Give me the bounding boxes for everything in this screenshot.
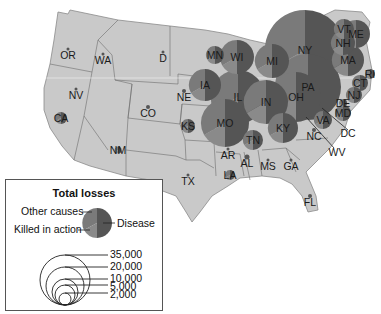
state-label-nm: NM	[110, 145, 126, 156]
legend-graphics	[6, 180, 164, 312]
legend-disease: Disease	[117, 218, 155, 229]
state-label-fl: FL	[304, 197, 316, 208]
state-label-va: VA	[316, 115, 329, 126]
state-label-ia: IA	[200, 80, 210, 91]
state-label-d: D	[159, 53, 167, 64]
state-label-ga: GA	[283, 161, 298, 172]
state-label-wi: WI	[231, 52, 244, 63]
state-label-il: IL	[234, 92, 243, 103]
state-label-in: IN	[261, 97, 272, 108]
state-label-mo: MO	[217, 118, 234, 129]
legend-scale-35000: 35,000	[110, 249, 142, 260]
state-label-nc: NC	[306, 131, 321, 142]
state-label-ne: NE	[177, 92, 192, 103]
pie-symbols	[55, 10, 375, 198]
legend-other-causes: Other causes	[21, 206, 83, 217]
state-label-wa: WA	[95, 55, 112, 66]
state-label-ks: KS	[181, 121, 195, 132]
legend-scale-2000: 2,000	[110, 289, 136, 300]
state-label-ca: CA	[54, 113, 69, 124]
state-label-mi: MI	[266, 56, 278, 67]
state-label-ma: MA	[340, 55, 356, 66]
state-label-ny: NY	[298, 45, 313, 56]
state-label-pa: PA	[301, 82, 314, 93]
legend-scale-20000: 20,000	[110, 261, 142, 272]
state-label-co: CO	[140, 108, 156, 119]
state-label-nv: NV	[69, 90, 84, 101]
state-label-ky: KY	[276, 123, 290, 134]
state-label-dc: DC	[340, 128, 355, 139]
state-label-tx: TX	[181, 176, 194, 187]
state-label-md: MD	[335, 108, 351, 119]
state-label-me: ME	[348, 29, 364, 40]
state-label-al: AL	[241, 158, 254, 169]
state-label-mn: MN	[207, 50, 223, 61]
state-label-wv: WV	[329, 147, 346, 158]
legend-box: Total losses Other causes Killed in acti…	[5, 179, 163, 311]
legend-size-circles	[40, 255, 108, 305]
state-label-or: OR	[60, 50, 76, 61]
state-label-ms: MS	[260, 161, 276, 172]
legend-killed-in-action: Killed in action	[14, 224, 82, 235]
state-label-oh: OH	[288, 92, 304, 103]
state-label-tn: TN	[246, 135, 260, 146]
state-label-la: LA	[224, 170, 237, 181]
state-label-ct: CT	[353, 78, 367, 89]
state-label-ar: AR	[221, 150, 236, 161]
legend-pie	[78, 208, 115, 238]
